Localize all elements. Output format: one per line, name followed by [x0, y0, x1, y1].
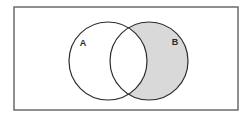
set-label-a: A	[80, 38, 87, 48]
set-label-b: B	[172, 37, 179, 47]
venn-diagram-figure: A B	[0, 0, 250, 117]
shaded-region-b-minus-a	[0, 0, 250, 117]
venn-diagram-canvas: A B	[0, 0, 250, 117]
